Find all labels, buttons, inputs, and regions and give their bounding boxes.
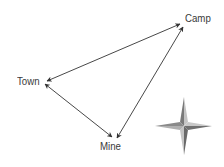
compass-rose-icon	[155, 97, 212, 155]
node-label-mine: Mine	[100, 141, 121, 152]
edge-camp-mine	[117, 27, 183, 138]
node-label-town: Town	[17, 76, 40, 87]
node-label-camp: Camp	[185, 13, 211, 24]
edge-town-camp	[47, 24, 180, 81]
route-diagram: Camp Town Mine	[0, 0, 224, 167]
edge-town-mine	[45, 84, 112, 137]
